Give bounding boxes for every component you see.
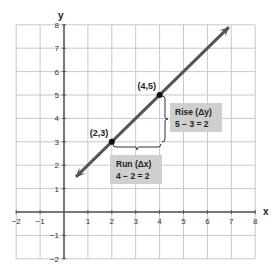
x-tick-label: −2: [12, 217, 22, 226]
data-point: [109, 139, 115, 145]
y-tick-label: 7: [55, 44, 60, 53]
y-tick-label: 1: [55, 185, 60, 194]
y-tick-label: −2: [50, 255, 60, 264]
x-tick-label: 5: [181, 217, 186, 226]
data-point: [157, 92, 163, 98]
x-tick-label: 2: [110, 217, 115, 226]
x-tick-label: −1: [36, 217, 46, 226]
y-axis-label: y: [58, 10, 64, 21]
line-segment: [76, 27, 229, 177]
points: (2,3)(4,5): [90, 81, 163, 145]
x-tick-label: 8: [253, 217, 258, 226]
point-label: (2,3): [90, 128, 109, 138]
x-tick-label: 4: [157, 217, 162, 226]
rise-brace-icon: [162, 96, 168, 142]
slope-chart: −2−11234567887654321−1−2 x y Rise (Δy) 5…: [0, 0, 278, 271]
x-tick-label: 1: [86, 217, 91, 226]
y-tick-label: 3: [55, 138, 60, 147]
y-tick-label: 6: [55, 68, 60, 77]
slope-line: [76, 27, 229, 177]
y-tick-label: −1: [50, 231, 60, 240]
x-axis-label: x: [263, 206, 269, 217]
y-tick-label: 8: [55, 21, 60, 30]
run-annotation: Run (Δx) 4 − 2 = 2: [110, 155, 162, 184]
y-tick-label: 2: [55, 161, 60, 170]
x-tick-label: 6: [205, 217, 210, 226]
run-brace-icon: [113, 144, 161, 150]
y-tick-label: 5: [55, 91, 60, 100]
run-equation: 4 − 2 = 2: [116, 171, 150, 181]
y-tick-label: 4: [55, 114, 60, 123]
run-label: Run (Δx): [116, 159, 152, 169]
chart-svg: −2−11234567887654321−1−2 x y Rise (Δy) 5…: [0, 0, 278, 271]
x-tick-label: 3: [133, 217, 138, 226]
rise-annotation: Rise (Δy) 5 − 3 = 2: [170, 103, 222, 132]
rise-label: Rise (Δy): [175, 107, 212, 117]
rise-equation: 5 − 3 = 2: [175, 119, 209, 129]
point-label: (4,5): [138, 81, 157, 91]
x-tick-label: 7: [229, 217, 234, 226]
